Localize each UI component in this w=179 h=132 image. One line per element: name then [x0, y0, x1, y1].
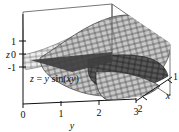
- z-tick-neg1: -1: [8, 62, 16, 73]
- surface-mesh: [23, 12, 171, 101]
- x-tick-1: 1: [173, 71, 178, 82]
- y-axis-label: y: [69, 120, 75, 131]
- y-axis: [23, 98, 136, 108]
- y-tick-2: 2: [97, 107, 102, 118]
- eqn-sin: sin(: [52, 73, 68, 85]
- equation-annotation: z = y sin(xy): [29, 73, 79, 85]
- y-tick-0: 0: [21, 109, 26, 120]
- z-axis-label: z: [5, 49, 10, 60]
- z-tick-0: 0: [11, 49, 16, 60]
- x-axis-label: x: [165, 90, 171, 101]
- surface-plot-canvas: 1 0 -1 z 0 1 2 3 y 2 1 x z = y sin(xy): [0, 0, 179, 132]
- svg-text:z = y sin(xy): z = y sin(xy): [29, 73, 79, 85]
- y-tick-1: 1: [59, 108, 64, 119]
- eqn-close: ): [75, 73, 78, 85]
- surface-plot-figure: 1 0 -1 z 0 1 2 3 y 2 1 x z = y sin(xy): [0, 0, 179, 132]
- x-tick-2: 2: [138, 103, 143, 114]
- z-tick-1: 1: [11, 36, 16, 47]
